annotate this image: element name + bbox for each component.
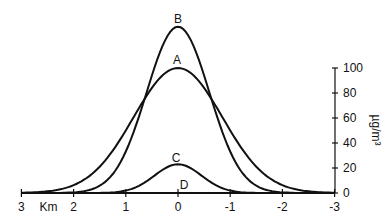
x-tick-label: 1 bbox=[122, 200, 129, 214]
y-tick-label: 60 bbox=[343, 111, 357, 125]
y-axis-unit-label: µg/m³ bbox=[369, 115, 383, 146]
x-tick-label: 0 bbox=[175, 200, 182, 214]
curve-label-a: A bbox=[173, 53, 181, 67]
x-tick-label: -1 bbox=[225, 200, 236, 214]
curve-label-b: B bbox=[174, 12, 182, 26]
curve-label-c: C bbox=[172, 151, 181, 165]
curve-b bbox=[21, 27, 334, 193]
curve-label-d: D bbox=[180, 178, 189, 192]
x-tick-label: 2 bbox=[70, 200, 77, 214]
y-tick-label: 80 bbox=[343, 86, 357, 100]
x-tick-label: -2 bbox=[277, 200, 288, 214]
y-tick-label: 100 bbox=[343, 61, 363, 75]
x-axis-unit-label: Km bbox=[39, 200, 57, 214]
concentration-chart: 3210-1-2-3Km020406080100µg/m³BACD bbox=[0, 0, 392, 223]
y-tick-label: 40 bbox=[343, 136, 357, 150]
curve-c bbox=[21, 164, 334, 193]
y-tick-label: 20 bbox=[343, 161, 357, 175]
curve-a bbox=[21, 68, 334, 193]
x-tick-label: -3 bbox=[329, 200, 340, 214]
x-tick-label: 3 bbox=[18, 200, 25, 214]
y-tick-label: 0 bbox=[343, 186, 350, 200]
